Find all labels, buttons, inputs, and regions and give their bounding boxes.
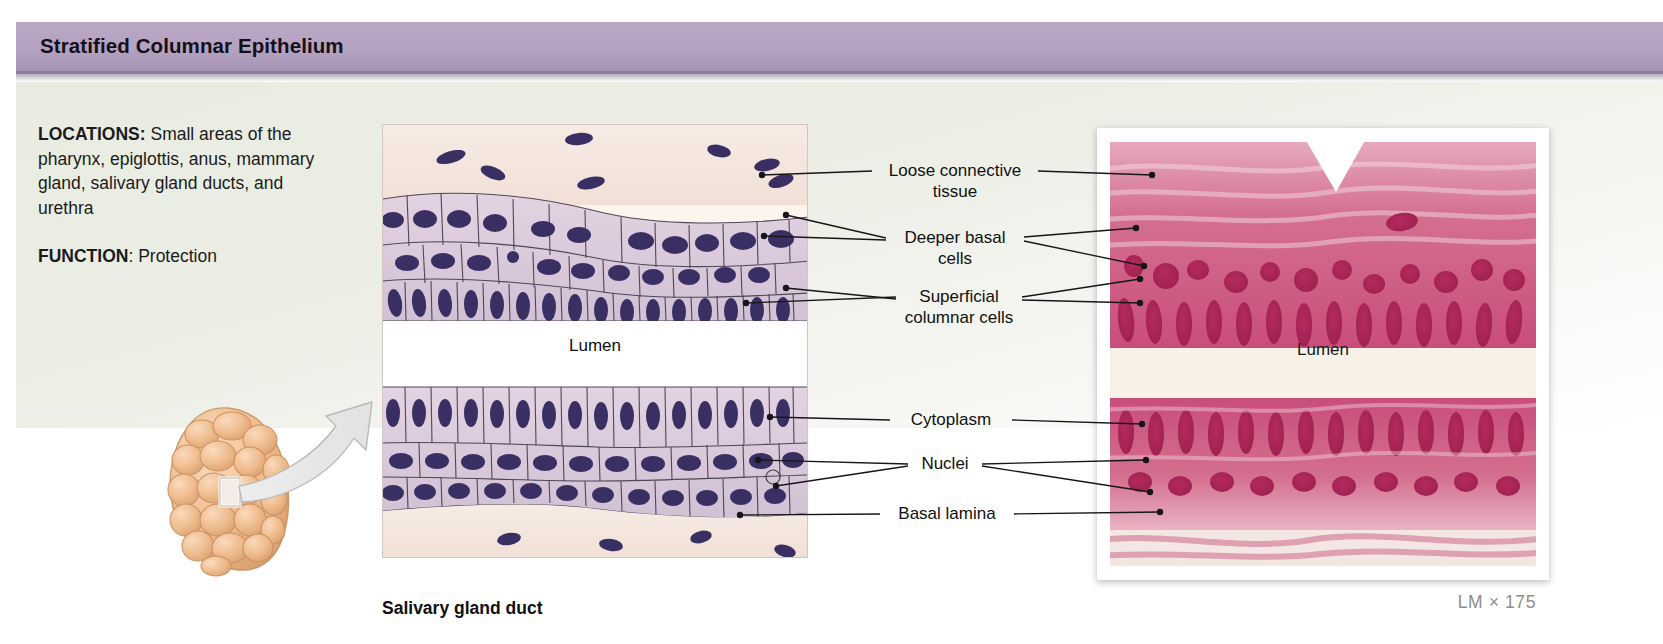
info-text-block: LOCATIONS: Small areas of the pharynx, e…: [38, 122, 338, 269]
function-label: FUNCTION: [38, 246, 128, 266]
salivary-gland-illustration: [140, 330, 400, 580]
micrograph-lumen-label: Lumen: [1110, 340, 1536, 360]
title-bar-shadow: [16, 74, 1663, 82]
sample-window: [220, 478, 240, 506]
function-paragraph: FUNCTION: Protection: [38, 244, 338, 269]
diagram-caption: Salivary gland duct: [382, 598, 542, 619]
label-nuclei: Nuclei: [908, 453, 982, 474]
label-cytoplasm: Cytoplasm: [890, 409, 1012, 430]
diagram-lumen-label: Lumen: [382, 336, 808, 356]
magnification-label: LM × 175: [1350, 592, 1536, 613]
locations-label: LOCATIONS:: [38, 124, 146, 144]
label-basal-lamina: Basal lamina: [880, 503, 1014, 524]
label-deeper-basal-cells: Deeper basal cells: [886, 227, 1024, 269]
figure-page: Stratified Columnar Epithelium LOCATIONS…: [0, 0, 1663, 644]
locations-paragraph: LOCATIONS: Small areas of the pharynx, e…: [38, 122, 338, 220]
label-loose-connective-tissue: Loose connective tissue: [872, 160, 1038, 202]
label-superficial-columnar-cells: Superficial columnar cells: [896, 286, 1022, 328]
function-text: : Protection: [128, 246, 217, 266]
page-title: Stratified Columnar Epithelium: [40, 34, 344, 58]
